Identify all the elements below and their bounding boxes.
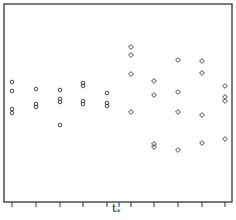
x-axis-marker-label: t* [112, 203, 120, 217]
strip-chart [0, 0, 236, 220]
diamond-marker [176, 148, 181, 153]
diamond-marker [200, 71, 205, 76]
diamond-marker [176, 58, 181, 63]
plot-frame [4, 4, 232, 202]
circle-marker [10, 89, 14, 93]
diamond-marker [176, 90, 181, 95]
diamond-marker [223, 137, 228, 142]
diamond-marker [152, 79, 157, 84]
diamond-marker [200, 113, 205, 118]
circle-marker [58, 123, 62, 127]
diamond-marker [176, 110, 181, 115]
data-points [10, 45, 227, 153]
circle-marker [58, 88, 62, 92]
diamond-marker [129, 53, 134, 58]
diamond-marker [129, 72, 134, 77]
circle-marker [105, 91, 109, 95]
diamond-marker [129, 45, 134, 50]
marker-label-subscript: * [116, 208, 120, 217]
diamond-marker [200, 141, 205, 146]
circle-marker [10, 111, 14, 115]
circle-marker [34, 87, 38, 91]
diamond-marker [129, 110, 134, 115]
diamond-marker [200, 59, 205, 64]
diamond-marker [223, 84, 228, 89]
circle-marker [10, 80, 14, 84]
circle-marker [10, 107, 14, 111]
diamond-marker [152, 93, 157, 98]
